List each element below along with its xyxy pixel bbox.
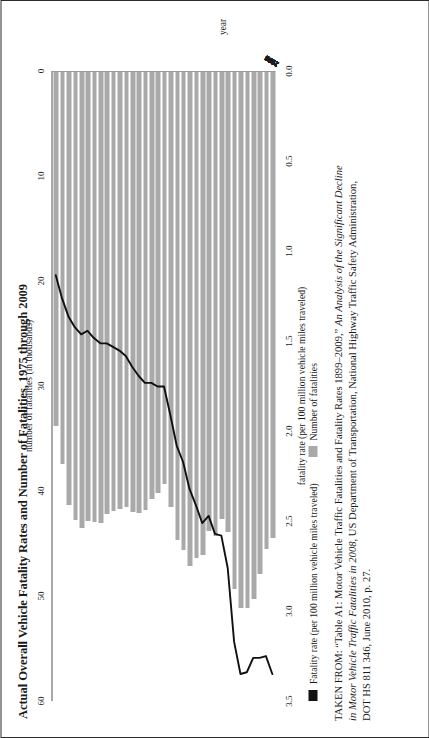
- fatalities-tick: 40: [35, 487, 45, 496]
- page-frame: Actual Overall Vehicle Fatality Rates an…: [0, 0, 429, 738]
- source-note: TAKEN FROM: “Table A1: Motor Vehicle Tra…: [331, 15, 373, 721]
- plot-canvas: 1975197619771978197919801981198219831984…: [51, 71, 275, 701]
- rate-tick: 2.0: [283, 425, 293, 436]
- chart-legend: Fatality rate (per 100 million vehicle m…: [307, 363, 318, 701]
- fatalities-tick: 10: [35, 172, 45, 181]
- rate-tick: 2.5: [283, 515, 293, 526]
- year-label: 2009: [263, 54, 280, 69]
- fatalities-tick: 0: [35, 69, 45, 74]
- source-note-line-2: in Motor Vehicle Traffic Fatalities in 2…: [345, 15, 359, 721]
- source-note-line-3: DOT HS 811 346, June 2010, p. 27.: [359, 15, 373, 721]
- source-note-line-1: TAKEN FROM: “Table A1: Motor Vehicle Tra…: [331, 15, 345, 721]
- rate-tick: 1.5: [283, 335, 293, 346]
- rate-axis: fatality rate (per 100 million vehicle m…: [277, 71, 293, 701]
- rate-tick: 0.0: [283, 65, 293, 76]
- legend-item-number-of-fatalities: Number of fatalities: [307, 363, 318, 457]
- chart-area: number of fatalities (in thousands) 0102…: [35, 15, 327, 721]
- fatalities-tick: 60: [35, 697, 45, 706]
- legend-item-fatality-rate: Fatality rate (per 100 million vehicle m…: [307, 483, 318, 701]
- rate-tick: 0.5: [283, 155, 293, 166]
- rate-axis-title: fatality rate (per 100 million vehicle m…: [295, 71, 306, 701]
- legend-label-fatality-rate: Fatality rate (per 100 million vehicle m…: [307, 483, 318, 684]
- plot-region: number of fatalities (in thousands) 0102…: [35, 71, 293, 701]
- bar-swatch-icon: [308, 446, 317, 457]
- fatalities-axis-title: number of fatalities (in thousands): [22, 71, 33, 701]
- legend-label-number-of-fatalities: Number of fatalities: [307, 363, 318, 440]
- fatality-rate-line: [52, 72, 275, 701]
- rate-tick: 3.5: [283, 695, 293, 706]
- fatalities-tick: 20: [35, 277, 45, 286]
- fatalities-tick: 30: [35, 382, 45, 391]
- rate-axis-label-holder: [35, 707, 293, 723]
- scanned-page: Actual Overall Vehicle Fatality Rates an…: [0, 0, 429, 738]
- line-series: [52, 72, 275, 701]
- rate-tick: 1.0: [283, 245, 293, 256]
- fatalities-tick: 50: [35, 592, 45, 601]
- line-swatch-icon: [308, 690, 317, 701]
- category-axis-title: year: [217, 19, 227, 35]
- rate-tick: 3.0: [283, 605, 293, 616]
- fatalities-axis: number of fatalities (in thousands) 0102…: [35, 71, 51, 701]
